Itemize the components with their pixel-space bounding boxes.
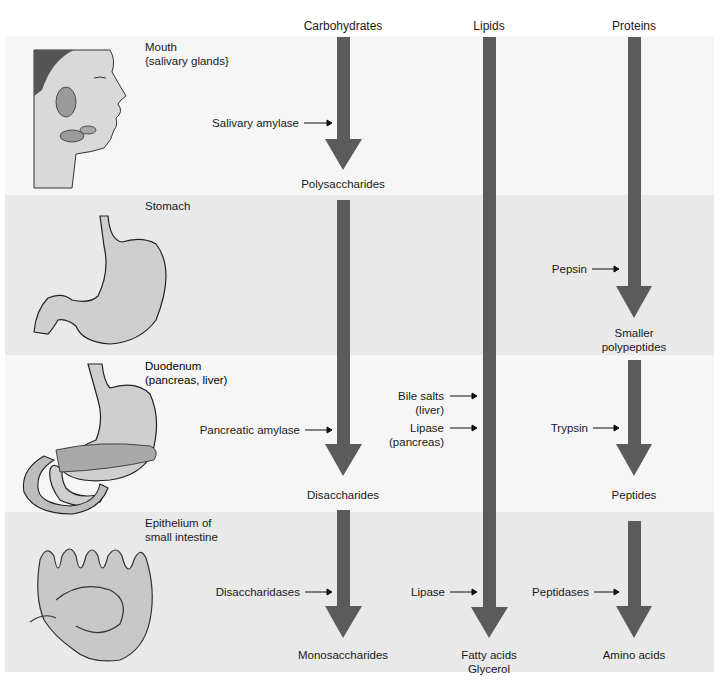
product-smaller-polypeptides: Smaller polypeptides bbox=[602, 326, 667, 354]
product-disaccharides: Disaccharides bbox=[307, 488, 379, 502]
protein-arrow-intestine bbox=[616, 521, 652, 638]
arrow-lipase-intestine bbox=[450, 589, 477, 595]
product-line: polypeptides bbox=[602, 340, 667, 354]
product-line: Glycerol bbox=[461, 662, 517, 676]
arrow-peptidases bbox=[594, 589, 619, 595]
protein-arrow-mouth-stomach bbox=[616, 37, 652, 318]
arrow-lipase-pancreas bbox=[450, 425, 477, 431]
arrow-pancreatic-amylase bbox=[305, 427, 332, 433]
enzyme-pancreatic-amylase: Pancreatic amylase bbox=[200, 423, 300, 437]
product-line: Smaller bbox=[602, 326, 667, 340]
enzyme-lipase-intestine: Lipase bbox=[411, 585, 445, 599]
arrow-disaccharidases bbox=[305, 589, 332, 595]
arrow-bile-salts bbox=[450, 393, 477, 399]
lipid-arrow bbox=[471, 37, 508, 638]
product-monosaccharides: Monosaccharides bbox=[298, 648, 388, 662]
arrow-salivary-amylase bbox=[304, 120, 332, 126]
carb-arrow-intestine bbox=[325, 510, 362, 638]
product-line: Fatty acids bbox=[461, 648, 517, 662]
enzyme-lipase-pancreas: Lipase (pancreas) bbox=[389, 421, 444, 449]
enzyme-salivary-amylase: Salivary amylase bbox=[212, 116, 299, 130]
enzyme-source: (liver) bbox=[398, 403, 444, 417]
protein-arrow-duodenum bbox=[616, 360, 652, 476]
product-polysaccharides: Polysaccharides bbox=[301, 177, 385, 191]
carb-arrow-stomach-duodenum bbox=[325, 200, 362, 476]
product-amino-acids: Amino acids bbox=[603, 648, 666, 662]
enzyme-pepsin: Pepsin bbox=[552, 262, 587, 276]
enzyme-bile-salts: Bile salts (liver) bbox=[398, 389, 444, 417]
enzyme-disaccharidases: Disaccharidases bbox=[216, 585, 300, 599]
enzyme-name: Bile salts bbox=[398, 389, 444, 403]
arrow-trypsin bbox=[593, 425, 619, 431]
carb-arrow-mouth bbox=[325, 37, 362, 170]
product-peptides: Peptides bbox=[612, 488, 657, 502]
product-fatty-acids-glycerol: Fatty acids Glycerol bbox=[461, 648, 517, 676]
enzyme-name: Lipase bbox=[389, 421, 444, 435]
enzyme-peptidases: Peptidases bbox=[532, 585, 589, 599]
arrow-pepsin bbox=[592, 266, 619, 272]
enzyme-trypsin: Trypsin bbox=[551, 421, 588, 435]
enzyme-source: (pancreas) bbox=[389, 435, 444, 449]
